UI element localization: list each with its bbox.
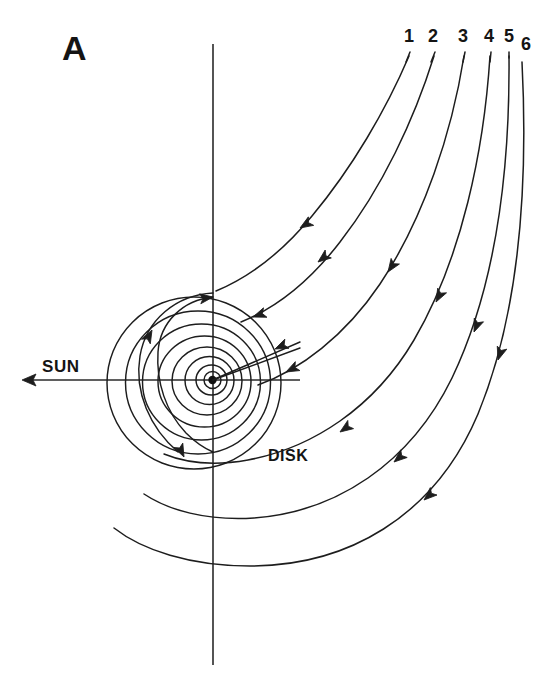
- stream-line-5: [144, 56, 509, 518]
- stream-label-3: 3: [458, 26, 468, 46]
- stream-label-5: 5: [504, 26, 514, 46]
- stream-line-2: [241, 56, 434, 322]
- inner-return-loop-left-2: [139, 293, 213, 452]
- stream-label-4: 4: [484, 26, 494, 46]
- stream-line-1: [216, 56, 409, 291]
- disk-label: DISK: [268, 447, 308, 464]
- stream-label-2: 2: [428, 26, 438, 46]
- stream-label-ticks: [406, 52, 509, 62]
- panel-label: A: [62, 29, 87, 67]
- figure-panel-a: A SUN DISK 1 2 3 4 5 6: [0, 0, 544, 681]
- ring-7: [107, 297, 281, 469]
- figure-canvas: A SUN DISK 1 2 3 4 5 6: [0, 0, 544, 681]
- sun-label: SUN: [42, 357, 80, 376]
- stream-label-6: 6: [521, 34, 531, 54]
- stream-label-1: 1: [404, 26, 414, 46]
- stream-line-3: [258, 56, 464, 385]
